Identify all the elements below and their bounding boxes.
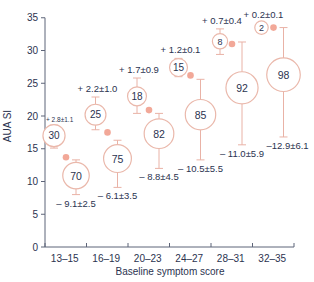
worsened-percent: 8 [217,37,222,47]
worsened-change-label: + 1.7±0.9 [119,64,159,75]
baseline-dot [63,154,70,161]
x-tick-label: 16–19 [92,253,120,264]
x-tick-label: 24–27 [175,253,203,264]
improved-change-label: – 8.8±4.5 [139,171,179,182]
y-tick-label: 5 [32,209,38,220]
improved-change-label: – 10.5±5.5 [178,163,223,174]
worsened-percent: 30 [48,130,60,141]
worsened-percent: 25 [90,109,102,120]
baseline-dot [270,24,277,31]
x-axis: 13–1516–1920–2324–2728–3132–35 [45,243,294,264]
category-group: 8+ 0.7±0.492– 11.0±5.9 [202,15,264,159]
category-group: 30+ 2.8±1.170– 9.1±2.5 [43,116,96,208]
y-tick-label: 20 [27,111,39,122]
x-tick-label: 20–23 [134,253,162,264]
plot-area: 30+ 2.8±1.170– 9.1±2.525+ 2.2±1.075– 6.1… [43,9,309,209]
x-axis-label: Baseline symptom score [116,266,225,277]
improved-change-label: – 11.0±5.9 [220,148,264,159]
worsened-change-label: + 2.2±1.0 [78,83,118,94]
baseline-dot [187,72,194,79]
chart: 05101520253035 13–1516–1920–2324–2728–31… [0,0,314,282]
improved-change-label: – 6.1±3.5 [98,190,138,201]
improved-change-label: –12.9±6.1 [266,140,308,151]
improved-percent: 85 [195,109,207,121]
y-tick-label: 35 [27,12,39,23]
category-group: 15+ 1.2±0.185– 10.5±5.5 [161,44,223,174]
baseline-dot [229,41,236,48]
y-axis: 05101520253035 [27,12,45,252]
x-tick-label: 32–35 [258,253,286,264]
worsened-percent: 2 [259,23,264,33]
worsened-percent: 15 [173,62,185,73]
improved-percent: 98 [278,69,290,81]
baseline-dot [146,107,153,114]
y-tick-label: 25 [27,78,39,89]
x-tick-label: 13–15 [51,253,79,264]
baseline-dot [104,129,111,136]
improved-percent: 75 [112,153,124,165]
y-tick-label: 15 [27,143,39,154]
improved-change-label: – 9.1±2.5 [56,198,96,209]
worsened-change-label: + 0.2±0.1 [244,9,284,20]
y-tick-label: 30 [27,45,39,56]
improved-percent: 82 [153,128,165,140]
worsened-change-label: + 0.7±0.4 [202,15,242,26]
worsened-change-label: + 2.8±1.1 [46,116,74,123]
y-axis-label: AUA SI [2,110,13,142]
y-tick-label: 0 [32,242,38,253]
x-tick-label: 28–31 [217,253,245,264]
improved-percent: 70 [70,170,82,182]
worsened-percent: 18 [131,91,143,102]
improved-percent: 92 [236,82,248,94]
worsened-change-label: + 1.2±0.1 [161,44,201,55]
y-tick-label: 10 [27,176,39,187]
